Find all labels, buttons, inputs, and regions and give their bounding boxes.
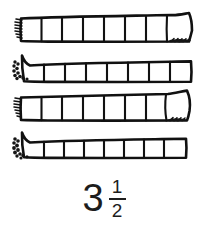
- fraction-bar-2: [12, 56, 191, 83]
- fraction-bar-3: [14, 91, 190, 122]
- fraction-bar-4: [12, 133, 186, 160]
- bar-3-right-hatch-icon: [168, 118, 186, 122]
- fraction-bar-1: [15, 13, 192, 42]
- bar-1-right-hatch-icon: [169, 39, 191, 43]
- bar-1-dividers: [42, 16, 168, 42]
- fraction-part: 1 2: [109, 177, 126, 221]
- mixed-number-inner: 3 1 2: [82, 176, 125, 221]
- mixed-number-answer: 3 1 2: [0, 168, 208, 228]
- whole-number-part: 3: [82, 179, 103, 217]
- fraction-denominator: 2: [109, 201, 126, 221]
- fraction-bars-figure: [0, 0, 208, 170]
- worksheet-canvas: 3 1 2: [0, 0, 208, 228]
- fraction-numerator: 1: [109, 177, 126, 197]
- fraction-bars-drawing: [0, 0, 208, 170]
- bar-3-dividers: [42, 94, 167, 120]
